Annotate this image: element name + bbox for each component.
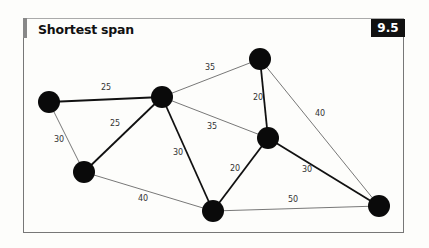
node-D	[73, 161, 95, 183]
edge-weight-label: 25	[110, 119, 120, 128]
edge-weight-label: 30	[173, 148, 183, 157]
edge-A-B	[49, 97, 162, 102]
edge-weight-label: 30	[302, 165, 312, 174]
edge-F-E	[213, 138, 268, 211]
edge-E-G	[213, 206, 379, 211]
node-F	[257, 127, 279, 149]
edge-weight-label: 20	[253, 93, 263, 102]
node-C	[249, 48, 271, 70]
node-B	[151, 86, 173, 108]
edge-weight-label: 30	[54, 135, 64, 144]
edge-weight-label: 40	[138, 194, 148, 203]
edge-F-G	[268, 138, 379, 206]
node-E	[202, 200, 224, 222]
edge-D-E	[84, 172, 213, 211]
edge-C-G	[260, 59, 379, 206]
graph-diagram: 253025353530204020304050	[0, 0, 429, 248]
edge-weight-label: 20	[230, 164, 240, 173]
edge-weight-label: 25	[101, 83, 111, 92]
edge-B-D	[84, 97, 162, 172]
node-A	[38, 91, 60, 113]
edge-weight-label: 35	[207, 122, 217, 131]
edge-weight-label: 50	[288, 195, 298, 204]
edge-weight-label: 35	[205, 63, 215, 72]
node-G	[368, 195, 390, 217]
edge-weight-label: 40	[315, 109, 325, 118]
